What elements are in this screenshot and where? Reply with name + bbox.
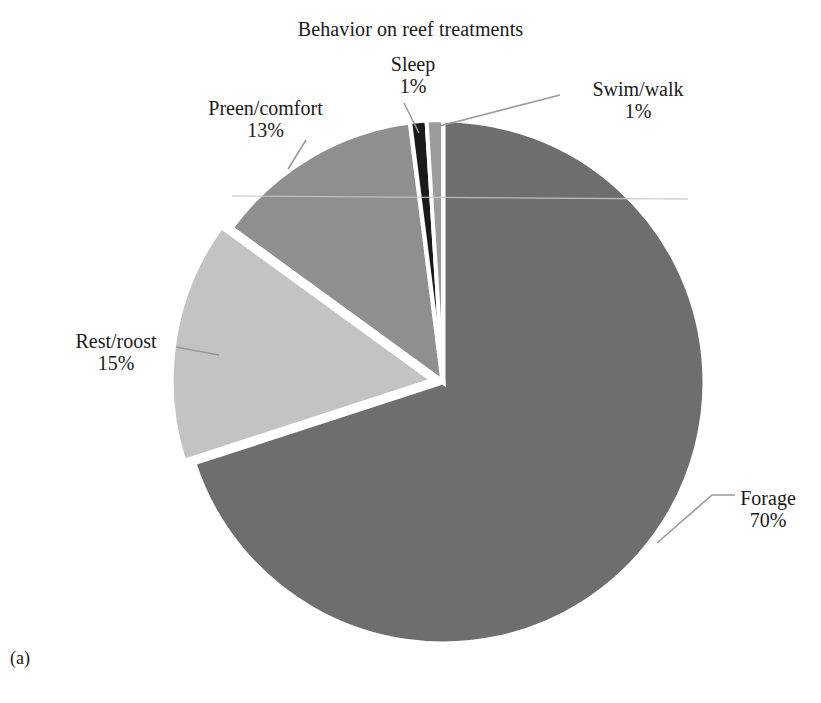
pie-label-sleep-value: 1% (343, 75, 483, 97)
pie-label-sleep: Sleep 1% (343, 53, 483, 98)
panel-caption: (a) (10, 648, 30, 669)
pie-label-preen-comfort: Preen/comfort 13% (178, 97, 353, 142)
pie-label-rest-roost-name: Rest/roost (36, 330, 196, 352)
pie-label-preen-comfort-name: Preen/comfort (178, 97, 353, 119)
pie-label-preen-comfort-value: 13% (178, 119, 353, 141)
pie-label-rest-roost: Rest/roost 15% (36, 330, 196, 375)
pie-label-forage-value: 70% (720, 509, 816, 531)
pie-label-swim-walk-value: 1% (563, 100, 713, 122)
pie-label-rest-roost-value: 15% (36, 352, 196, 374)
pie-chart-figure: Behavior on reef treatments (0, 0, 821, 703)
pie-label-swim-walk-name: Swim/walk (563, 78, 713, 100)
pie-label-sleep-name: Sleep (343, 53, 483, 75)
leader-line-swim-walk (440, 95, 560, 126)
pie-label-forage-name: Forage (720, 487, 816, 509)
pie-label-swim-walk: Swim/walk 1% (563, 78, 713, 123)
pie-label-forage: Forage 70% (720, 487, 816, 532)
